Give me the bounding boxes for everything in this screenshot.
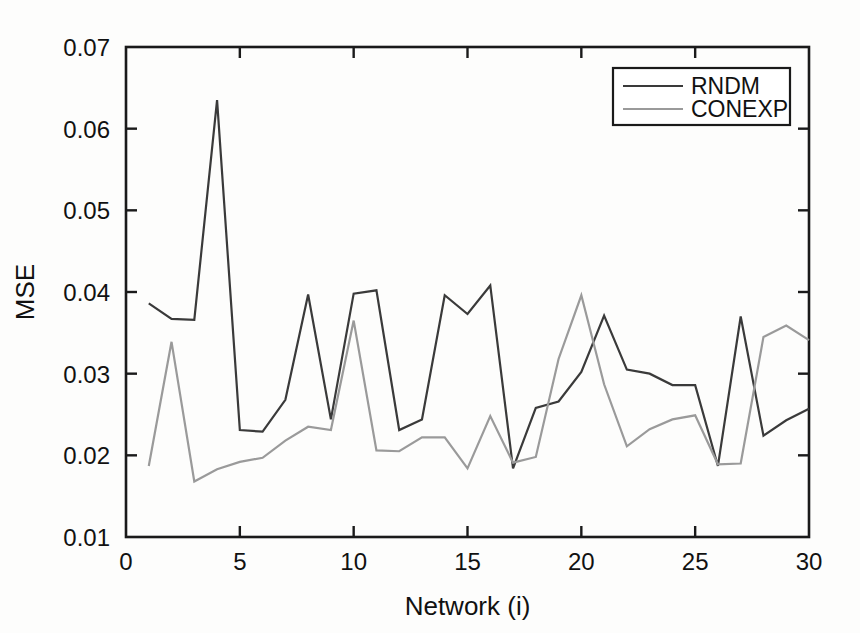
y-tick-label: 0.06 [63,116,110,143]
legend-label-conexp: CONEXP [691,96,788,122]
x-tick-label: 0 [119,548,132,575]
series-line-conexp [149,295,809,481]
y-tick-label: 0.04 [63,279,110,306]
x-tick-label: 30 [796,548,823,575]
x-tick-label: 10 [340,548,367,575]
chart-legend: RNDMCONEXP [613,68,790,125]
y-tick-label: 0.02 [63,442,110,469]
y-axis-title: MSE [10,264,40,320]
y-tick-label: 0.07 [63,34,110,61]
x-tick-label: 20 [568,548,595,575]
y-axis-ticks [126,129,809,456]
x-axis-title: Network (i) [405,591,531,621]
x-axis-tick-labels: 051015202530 [119,548,822,575]
mse-vs-network-line-chart: 0.010.020.030.040.050.060.07 05101520253… [0,0,860,633]
y-tick-label: 0.03 [63,361,110,388]
x-tick-label: 25 [682,548,709,575]
data-series-group [149,100,809,481]
y-tick-label: 0.01 [63,524,110,551]
y-axis-tick-labels: 0.010.020.030.040.050.060.07 [63,34,110,551]
x-tick-label: 15 [454,548,481,575]
chart-figure: 0.010.020.030.040.050.060.07 05101520253… [0,0,860,633]
series-line-rndm [149,100,809,468]
x-tick-label: 5 [233,548,246,575]
y-tick-label: 0.05 [63,197,110,224]
